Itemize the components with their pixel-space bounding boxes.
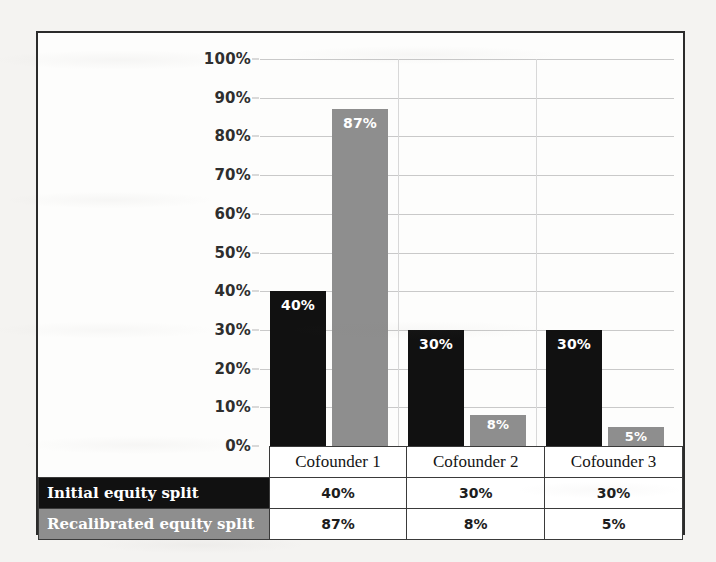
table-header-row: Cofounder 1Cofounder 2Cofounder 3	[39, 447, 683, 478]
y-axis-tick-label: 50%	[214, 244, 251, 262]
table-cell: 8%	[407, 509, 545, 540]
y-axis-tick-mark	[252, 175, 259, 176]
legend-series-label: Initial equity split	[39, 478, 270, 509]
bar-value-label: 8%	[470, 417, 526, 432]
y-axis-tick-mark	[252, 407, 259, 408]
bar: 5%	[608, 427, 664, 446]
table-cell: 40%	[269, 478, 407, 509]
table-corner-cell	[39, 447, 270, 478]
table-cell: 5%	[545, 509, 683, 540]
bar: 8%	[470, 415, 526, 446]
gridline	[260, 59, 674, 60]
category-separator	[398, 59, 399, 446]
y-axis-tick-mark	[252, 59, 259, 60]
y-axis-tick-mark	[252, 368, 259, 369]
y-axis-tick-label: 30%	[214, 321, 251, 339]
y-axis-tick-mark	[252, 136, 259, 137]
category-separator	[536, 59, 537, 446]
bar: 30%	[408, 330, 464, 446]
y-axis-tick-mark	[252, 213, 259, 214]
bar: 87%	[332, 109, 388, 446]
data-table: Cofounder 1Cofounder 2Cofounder 3Initial…	[38, 446, 683, 540]
table-column-header: Cofounder 2	[407, 447, 545, 478]
y-axis-tick-mark	[252, 97, 259, 98]
gridline	[260, 214, 674, 215]
y-axis-tick-label: 40%	[214, 282, 251, 300]
y-axis-tick-mark	[252, 329, 259, 330]
table-row: Recalibrated equity split87%8%5%	[39, 509, 683, 540]
y-axis-tick-label: 80%	[214, 127, 251, 145]
bar-value-label: 40%	[270, 297, 326, 313]
gridline	[260, 98, 674, 99]
y-axis-tick-label: 90%	[214, 89, 251, 107]
bar-value-label: 87%	[332, 115, 388, 131]
table-row: Initial equity split40%30%30%	[39, 478, 683, 509]
y-axis-tick-label: 100%	[204, 50, 251, 68]
y-axis-tick-mark	[252, 291, 259, 292]
bar: 40%	[270, 291, 326, 446]
y-axis-tick-label: 60%	[214, 205, 251, 223]
y-axis-tick-mark	[252, 252, 259, 253]
y-axis-tick-label: 20%	[214, 360, 251, 378]
bar: 30%	[546, 330, 602, 446]
table-cell: 30%	[545, 478, 683, 509]
table-column-header: Cofounder 3	[545, 447, 683, 478]
bar-value-label: 30%	[408, 336, 464, 352]
gridline	[260, 253, 674, 254]
plot-area: 0%10%20%30%40%50%60%70%80%90%100% 40%87%…	[260, 59, 674, 446]
table-cell: 87%	[269, 509, 407, 540]
table-cell: 30%	[407, 478, 545, 509]
y-axis-tick-label: 70%	[214, 166, 251, 184]
bar-value-label: 5%	[608, 429, 664, 444]
bar-value-label: 30%	[546, 336, 602, 352]
legend-series-label: Recalibrated equity split	[39, 509, 270, 540]
chart-frame: 0%10%20%30%40%50%60%70%80%90%100% 40%87%…	[36, 31, 685, 535]
gridline	[260, 136, 674, 137]
table-column-header: Cofounder 1	[269, 447, 407, 478]
gridline	[260, 175, 674, 176]
y-axis-tick-label: 10%	[214, 398, 251, 416]
